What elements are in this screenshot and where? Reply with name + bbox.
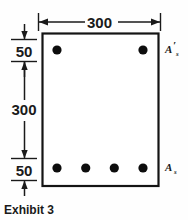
beam-section-outline: [43, 34, 159, 187]
depth-dimension-label: 300: [11, 101, 36, 118]
width-dimension-right-arrow-icon: [151, 19, 160, 26]
bottom-rebar-label-subscript: s: [173, 168, 177, 176]
exhibit-figure: 300 A ′ s A s: [0, 0, 188, 220]
top-width-dimension-group: 300: [39, 13, 161, 31]
width-dimension-label: 300: [87, 14, 112, 31]
top-cover-dimension-label: 50: [16, 43, 33, 60]
bottom-cover-dimension-group: 50: [16, 162, 33, 196]
beam-cross-section-diagram: 300 A ′ s A s: [0, 0, 188, 220]
bottom-rebar-label-symbol: A: [164, 161, 172, 173]
top-cover-arrow-down-icon: [21, 31, 27, 40]
rebar-dot: [52, 45, 61, 54]
top-rebar-label-symbol: A: [164, 43, 172, 55]
depth-dimension-group: 300: [11, 62, 36, 159]
rebar-dot: [138, 163, 147, 172]
rebar-dot: [81, 163, 90, 172]
rebar-dot: [52, 163, 61, 172]
bottom-cover-dimension-label: 50: [16, 162, 33, 179]
depth-arrow-down-icon: [21, 150, 27, 159]
rebar-dot: [110, 163, 119, 172]
top-rebar-label-subscript: s: [175, 50, 179, 58]
figure-caption: Exhibit 3: [4, 203, 54, 217]
top-rebar-label-group: A ′ s: [164, 39, 179, 58]
bottom-rebar-label-group: A s: [164, 161, 177, 176]
rebar-dot: [138, 45, 147, 54]
bottom-cover-arrow-up-icon: [21, 181, 27, 190]
width-dimension-left-arrow-icon: [39, 19, 48, 26]
